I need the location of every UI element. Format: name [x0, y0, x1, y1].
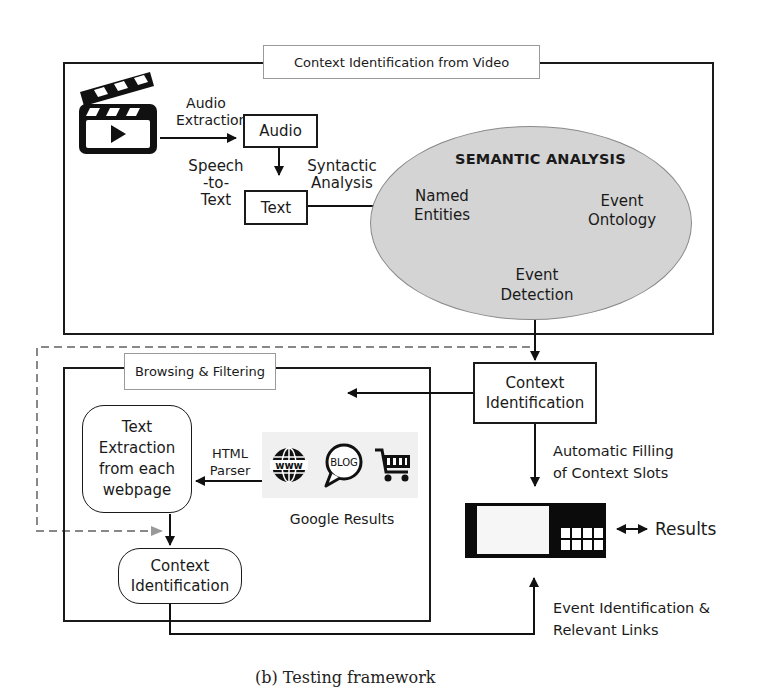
event-detection-node: Event Detection [495, 265, 579, 305]
browsing-filtering-title: Browsing & Filtering [124, 353, 276, 390]
automatic-filling-label: Automatic Filling of Context Slots [553, 440, 674, 484]
text-box: Text [244, 190, 308, 225]
event-identification-label: Event Identification & Relevant Links [553, 597, 710, 641]
audio-box: Audio [243, 114, 318, 148]
svg-text:BLOG: BLOG [330, 457, 358, 468]
results-screenshot-thumbnail [465, 503, 606, 558]
inner-context-identification-box: Context Identification [118, 548, 242, 604]
shopping-cart-icon [374, 446, 412, 484]
figure-caption: (b) Testing framework [255, 668, 436, 687]
syntactic-analysis-label: Syntactic Analysis [304, 158, 380, 192]
speech-to-text-label: Speech -to- Text [186, 158, 246, 209]
www-globe-icon: www [270, 446, 308, 484]
semantic-analysis-title: SEMANTIC ANALYSIS [455, 151, 626, 167]
thumbnail-grid [561, 528, 603, 550]
event-ontology-node: Event Ontology [580, 192, 664, 230]
results-label: Results [655, 519, 716, 539]
film-clapper-play-icon [76, 70, 160, 156]
blog-bubble-icon: BLOG [322, 442, 364, 488]
top-section-title-text: Context Identification from Video [294, 55, 509, 70]
context-identification-box: Context Identification [473, 362, 597, 424]
thumbnail-page-area [477, 506, 549, 554]
google-results-label: Google Results [282, 511, 402, 528]
top-section-title: Context Identification from Video [263, 45, 540, 79]
google-results-icons: www BLOG [262, 432, 418, 498]
svg-text:www: www [275, 460, 303, 471]
named-entities-node: Named Entities [400, 187, 484, 225]
audio-extraction-label: Audio Extraction [176, 95, 236, 129]
html-parser-label: HTML Parser [203, 445, 257, 479]
text-extraction-box: Text Extraction from each webpage [82, 405, 192, 513]
